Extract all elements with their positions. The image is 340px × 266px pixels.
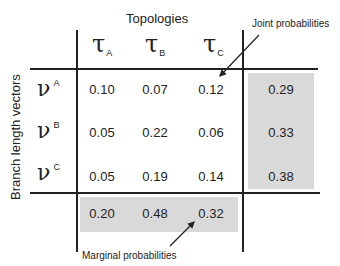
joint-arrow-icon [220, 35, 259, 76]
marginal-arrow-icon [170, 222, 194, 246]
annotation-arrows [0, 0, 340, 266]
